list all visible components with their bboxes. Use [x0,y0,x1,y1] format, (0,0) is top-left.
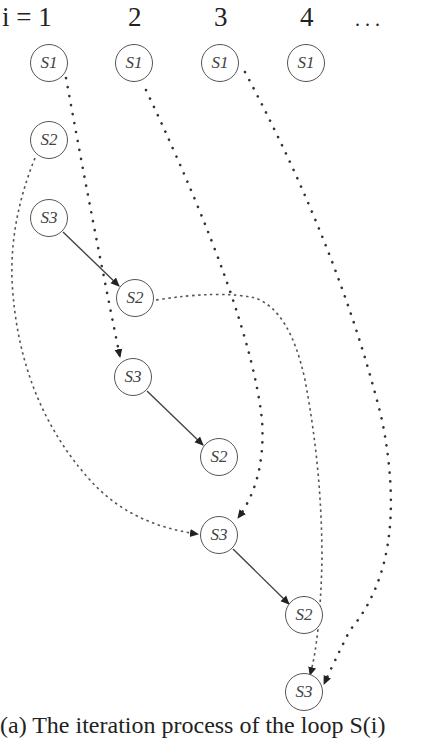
column-label-3: 3 [214,2,228,33]
node-s3-iter1: S3 [30,199,68,237]
node-s2-iter1: S2 [30,121,68,159]
figure-caption: (a) The iteration process of the loop S(… [0,712,385,739]
edge-s3-1-to-s2-2 [63,232,119,286]
node-s1-iter4: S1 [287,44,325,82]
node-s3-iter2: S3 [114,358,152,396]
node-s2-iter2: S2 [116,279,154,317]
column-label-2: 2 [128,2,142,33]
column-label-ellipsis: . . . [355,8,380,31]
edge-s1-1-to-s3-2 [66,78,120,357]
node-s1-iter3: S1 [201,44,239,82]
node-s1-iter2: S1 [115,44,153,82]
edge-s1-3-to-s3-4 [245,72,391,684]
column-label-i1: i = 1 [2,2,52,33]
node-s2-iter3: S2 [200,438,238,476]
node-s2-iter4: S2 [285,596,323,634]
column-label-4: 4 [300,2,314,33]
node-s1-iter1: S1 [30,44,68,82]
edge-s3-3-to-s2-4 [233,549,289,604]
node-s3-iter4: S3 [285,673,323,711]
edge-s3-2-to-s2-3 [147,391,203,445]
node-s3-iter3: S3 [200,516,238,554]
